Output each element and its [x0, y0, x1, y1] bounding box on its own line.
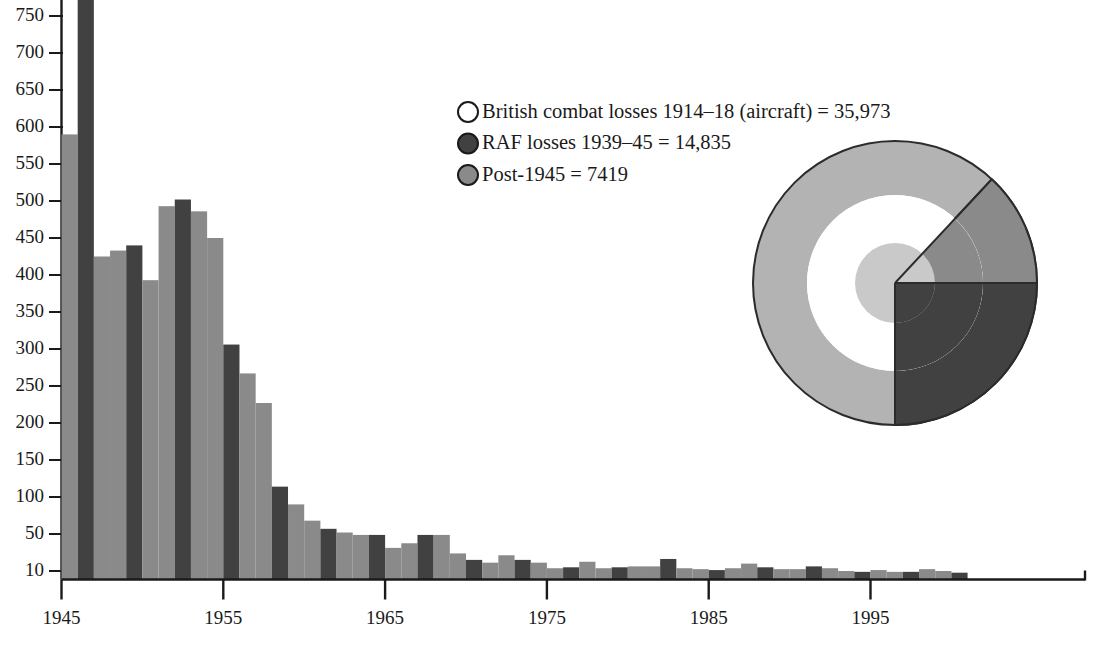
bar	[385, 548, 401, 580]
bar	[434, 535, 450, 580]
bar	[871, 570, 887, 579]
legend-marker-gray-circle	[458, 165, 478, 185]
bar	[142, 280, 158, 579]
y-tick-label: 300	[16, 337, 45, 358]
aircraft-losses-chart: 1050100150200250300350400450500550600650…	[0, 0, 1101, 656]
bar	[579, 562, 595, 580]
figure-container: 1050100150200250300350400450500550600650…	[0, 0, 1101, 656]
legend-marker-dark-circle	[458, 134, 478, 154]
x-tick-label: 1945	[43, 607, 81, 628]
bar	[531, 563, 547, 580]
bar	[790, 569, 806, 579]
legend-label: RAF losses 1939–45 = 14,835	[482, 131, 731, 153]
bar	[126, 245, 142, 579]
bar	[159, 206, 175, 579]
bar	[806, 566, 822, 579]
legend-label: British combat losses 1914–18 (aircraft)…	[482, 100, 890, 123]
legend-marker-open-circle	[458, 102, 478, 122]
bar	[110, 251, 126, 580]
bar	[919, 569, 935, 579]
bar	[935, 571, 951, 580]
y-tick-label: 250	[16, 374, 45, 395]
y-tick-label: 750	[16, 4, 45, 25]
bar	[515, 560, 531, 580]
y-tick-label: 200	[16, 411, 45, 432]
x-tick-label: 1955	[204, 607, 242, 628]
bar	[207, 238, 223, 580]
y-tick-label: 100	[16, 485, 45, 506]
bar	[628, 566, 644, 579]
bar	[175, 200, 191, 580]
y-tick-label: 650	[16, 78, 45, 99]
bar	[741, 564, 757, 580]
bar	[547, 568, 563, 579]
y-tick-label: 700	[16, 41, 45, 62]
y-tick-label: 550	[16, 152, 45, 173]
bar	[773, 569, 789, 579]
bar	[288, 504, 304, 579]
bar	[401, 543, 417, 579]
bar	[709, 570, 725, 579]
bar	[62, 134, 78, 579]
bar	[482, 563, 498, 580]
y-tick-label: 500	[16, 189, 45, 210]
y-tick-label: 400	[16, 263, 45, 284]
x-tick-label: 1995	[852, 607, 890, 628]
bar	[450, 553, 466, 579]
bar	[498, 555, 514, 579]
bar	[822, 568, 838, 579]
bar	[660, 559, 676, 580]
x-tick-label: 1965	[366, 607, 404, 628]
y-axis: 1050100150200250300350400450500550600650…	[16, 4, 64, 580]
bar	[595, 568, 611, 579]
bar	[304, 521, 320, 580]
bar	[239, 373, 255, 579]
bar	[563, 567, 579, 579]
y-tick-label: 350	[16, 300, 45, 321]
bar	[337, 533, 353, 580]
bar	[693, 569, 709, 579]
bar	[612, 567, 628, 579]
bar	[369, 535, 385, 580]
x-tick-label: 1975	[528, 607, 566, 628]
y-tick-label: 10	[25, 559, 44, 580]
bar	[256, 403, 272, 579]
bar	[320, 529, 336, 580]
pie-inset	[753, 141, 1037, 425]
bar	[757, 567, 773, 579]
bar	[353, 535, 369, 580]
bar	[223, 345, 239, 580]
bar	[725, 568, 741, 579]
y-tick-label: 50	[25, 522, 44, 543]
bar	[417, 535, 433, 580]
bar	[466, 560, 482, 580]
bar	[78, 0, 94, 579]
legend-label: Post-1945 = 7419	[482, 163, 628, 185]
bar	[644, 566, 660, 579]
x-tick-label: 1985	[690, 607, 728, 628]
bar	[94, 257, 110, 580]
y-tick-label: 150	[16, 448, 45, 469]
bar	[191, 211, 207, 579]
bar	[838, 571, 854, 580]
bar	[676, 568, 692, 579]
y-tick-label: 450	[16, 226, 45, 247]
bar	[272, 487, 288, 580]
y-tick-label: 600	[16, 115, 45, 136]
